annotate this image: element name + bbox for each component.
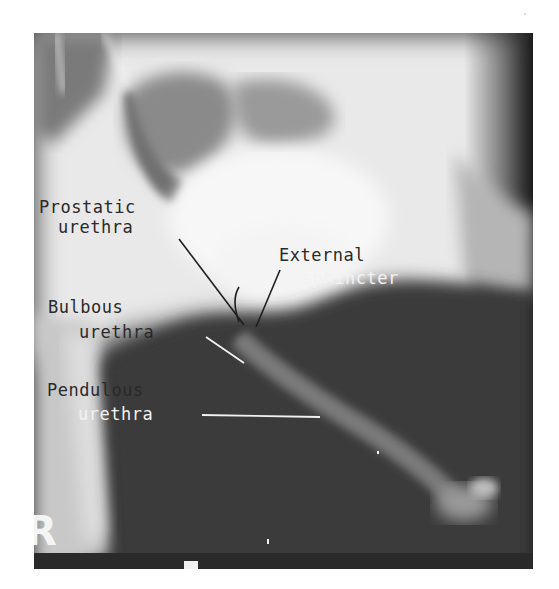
scale-tick: [184, 561, 198, 569]
label-prostatic-line1: Prostatic: [39, 199, 136, 216]
xray-image: R Prostatic urethra External sphincter B…: [34, 33, 533, 569]
label-bulbous-line1: Bulbous: [48, 299, 123, 316]
side-marker-r: R: [34, 511, 57, 551]
label-bulbous-line2: urethra: [79, 324, 154, 341]
label-pendulous-line2: urethra: [78, 406, 153, 423]
label-prostatic-line2: urethra: [58, 219, 133, 236]
corner-speck: [524, 13, 526, 15]
label-pendulous-line1: Pendulous: [47, 382, 144, 399]
label-external-line1: External: [279, 247, 365, 264]
label-external-line2: sphincter: [302, 270, 399, 287]
